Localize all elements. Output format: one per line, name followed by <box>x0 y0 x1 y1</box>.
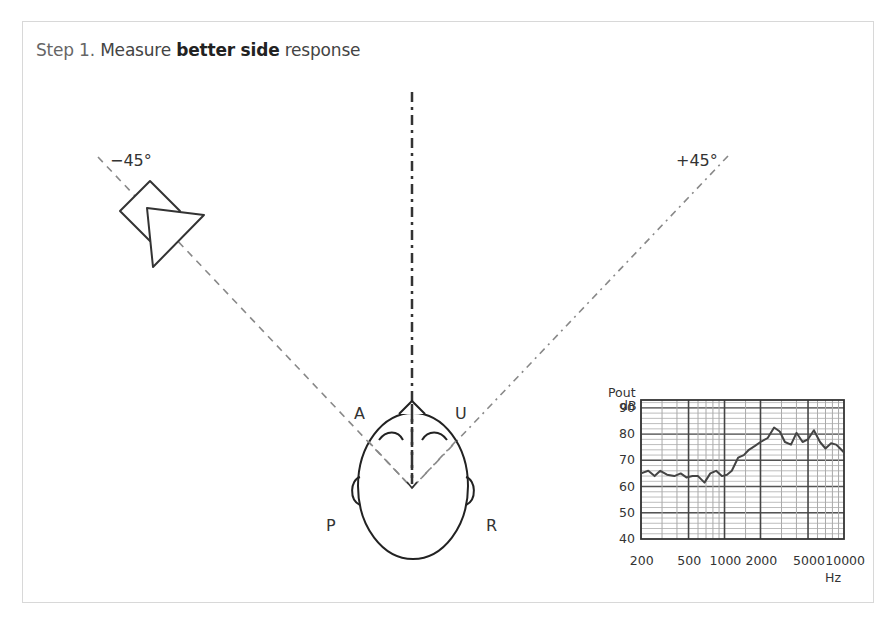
y-tick-label: 50 <box>619 505 635 520</box>
loudspeaker-icon <box>120 181 204 267</box>
chart-xlabel: Hz <box>825 570 841 585</box>
x-tick-label: 2000 <box>745 553 777 568</box>
head-label-u: U <box>455 404 467 423</box>
frequency-response-chart <box>641 400 844 539</box>
x-tick-label: 1000 <box>710 553 742 568</box>
y-tick-label: 60 <box>619 479 635 494</box>
setup-diagram <box>0 0 889 622</box>
x-tick-label: 200 <box>630 553 654 568</box>
x-tick-label: 500 <box>677 553 701 568</box>
x-tick-label: 10000 <box>825 553 865 568</box>
y-tick-label: 70 <box>619 452 635 467</box>
x-tick-label: 5000 <box>793 553 825 568</box>
y-tick-label: 90 <box>619 400 635 415</box>
y-tick-label: 40 <box>619 531 635 546</box>
head-label-p: P <box>326 516 336 535</box>
head-label-r: R <box>486 516 497 535</box>
plus45-line <box>412 156 728 488</box>
y-tick-label: 80 <box>619 426 635 441</box>
angle-right-label: +45° <box>676 151 718 170</box>
angle-left-label: −45° <box>110 151 152 170</box>
head-label-a: A <box>354 404 365 423</box>
